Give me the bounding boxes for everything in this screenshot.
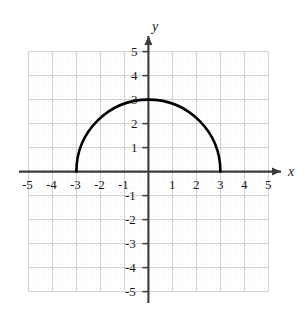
y-tick-label--3: -3 [125, 237, 136, 250]
y-tick-label--5: -5 [125, 285, 136, 298]
y-tick-label-5: 5 [131, 45, 138, 58]
y-tick-label-3: 3 [131, 93, 138, 106]
y-tick-label-2: 2 [131, 117, 138, 130]
y-tick-label--2: -2 [125, 213, 136, 226]
x-tick-label--3: -3 [70, 178, 81, 191]
x-tick-label-5: 5 [265, 178, 272, 191]
x-tick-label-1: 1 [169, 178, 176, 191]
y-tick-label-1: 1 [131, 141, 138, 154]
y-tick-label-4: 4 [131, 69, 138, 82]
x-tick-label-4: 4 [241, 178, 248, 191]
y-tick-label--1: -1 [125, 189, 136, 202]
x-tick-label-3: 3 [217, 178, 224, 191]
x-axis-label: x [288, 165, 294, 179]
x-tick-label--2: -2 [94, 178, 105, 191]
x-tick-label-2: 2 [193, 178, 200, 191]
x-tick-label--5: -5 [22, 178, 33, 191]
y-axis-label: y [152, 20, 158, 34]
y-tick-label--4: -4 [125, 261, 136, 274]
coordinate-plane [0, 0, 308, 314]
graph-figure: -5 -4 -3 -2 -1 1 2 3 4 5 5 4 3 2 1 -1 -2… [0, 0, 308, 314]
x-tick-label--4: -4 [46, 178, 57, 191]
